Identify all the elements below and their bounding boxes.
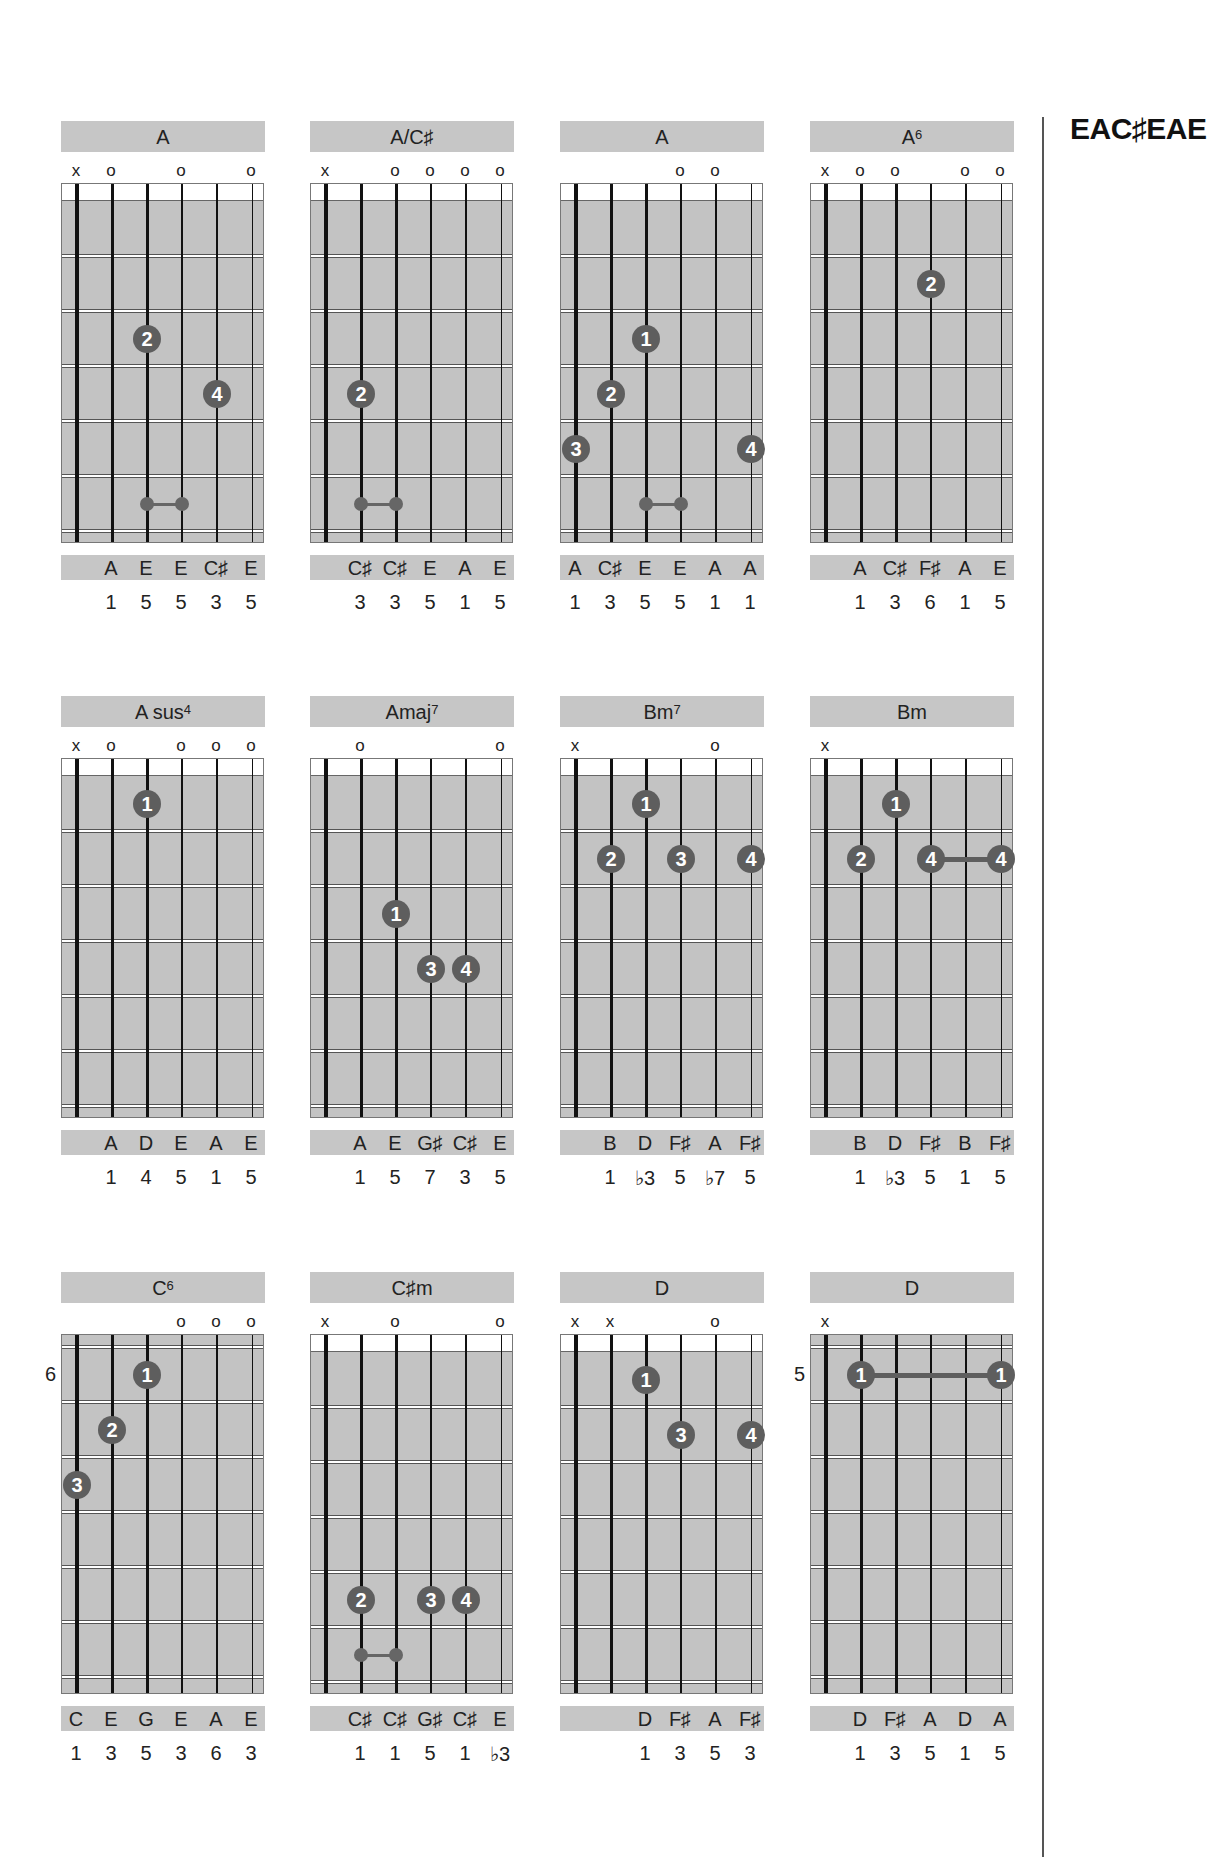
muted-string-marker: x	[565, 1312, 585, 1332]
fret-line	[311, 309, 512, 313]
note-name: G	[131, 1707, 161, 1731]
note-name: B	[845, 1131, 875, 1155]
scale-degree: 5	[236, 1166, 266, 1189]
chord-name: C♯m	[310, 1272, 514, 1303]
guitar-string	[860, 184, 863, 542]
note-name: E	[415, 556, 445, 580]
fret-line	[811, 1565, 1012, 1569]
guitar-string	[1001, 184, 1002, 542]
chord-diagram: A6xoooo2AC♯F♯AE13615	[810, 121, 1014, 621]
chord-diagram: Amaj7oo134AEG♯C♯E15735	[310, 696, 514, 1196]
guitar-string	[824, 1335, 828, 1693]
string-markers: ooo	[61, 1312, 265, 1334]
page-divider	[1042, 117, 1044, 1857]
finger-dot: 2	[597, 380, 625, 408]
open-string-marker: o	[850, 161, 870, 181]
finger-dot: 1	[632, 790, 660, 818]
fret-line	[311, 939, 512, 943]
scale-degree: 3	[880, 591, 910, 614]
note-name: A	[201, 1707, 231, 1731]
finger-dot: 4	[203, 380, 231, 408]
fret-line	[311, 419, 512, 423]
note-name: E	[236, 1707, 266, 1731]
fret-line	[561, 1460, 762, 1464]
string-markers: x	[810, 1312, 1014, 1334]
guitar-string	[930, 1335, 932, 1693]
open-string-marker: o	[490, 736, 510, 756]
scale-degrees: 1151♭3	[310, 1742, 514, 1768]
partial-barre-dot	[140, 497, 154, 511]
fret-line	[311, 1625, 512, 1629]
guitar-string	[252, 1335, 253, 1693]
scale-degree: 1	[96, 1166, 126, 1189]
scale-degree: 6	[201, 1742, 231, 1765]
scale-degree: 5	[700, 1742, 730, 1765]
fret-line	[561, 884, 762, 888]
fretboard: 1234	[560, 183, 763, 543]
note-names: AEG♯C♯E	[310, 1130, 514, 1155]
muted-string-marker: x	[315, 1312, 335, 1332]
guitar-string	[1001, 759, 1002, 1117]
fret-line	[561, 1625, 762, 1629]
fret-line	[811, 474, 1012, 478]
fretboard: 1	[61, 758, 264, 1118]
scale-degree: 1	[700, 591, 730, 614]
note-name: A	[96, 556, 126, 580]
fret-line	[561, 1515, 762, 1519]
partial-barre-dot	[354, 497, 368, 511]
scale-degrees: 13515	[810, 1742, 1014, 1768]
fret-line	[561, 309, 762, 313]
note-names: CEGEAE	[61, 1706, 265, 1731]
fret-line	[811, 1620, 1012, 1624]
guitar-string	[324, 1335, 328, 1693]
guitar-string	[395, 184, 398, 542]
finger-dot: 1	[632, 1366, 660, 1394]
fret-line	[811, 994, 1012, 998]
fret-line	[561, 1680, 762, 1684]
fret-line	[811, 829, 1012, 833]
fret-line	[561, 994, 762, 998]
finger-dot: 2	[917, 270, 945, 298]
open-string-marker: o	[670, 161, 690, 181]
fret-line	[811, 309, 1012, 313]
note-name: G♯	[415, 1707, 445, 1731]
muted-string-marker: x	[600, 1312, 620, 1332]
guitar-string	[252, 759, 253, 1117]
scale-degrees: 33515	[310, 591, 514, 617]
finger-dot: 4	[737, 845, 765, 873]
guitar-string	[181, 759, 183, 1117]
nut	[811, 759, 1012, 776]
note-name: E	[236, 556, 266, 580]
scale-degrees: 15535	[61, 591, 265, 617]
guitar-string	[501, 759, 502, 1117]
nut	[62, 184, 263, 201]
scale-degrees: 1♭3515	[810, 1166, 1014, 1192]
scale-degree: 1	[380, 1742, 410, 1765]
fret-line	[811, 1400, 1012, 1404]
note-name: C♯	[345, 1707, 375, 1731]
finger-dot: 4	[917, 845, 945, 873]
nut	[561, 184, 762, 201]
guitar-string	[216, 1335, 218, 1693]
scale-degree: 5	[415, 1742, 445, 1765]
guitar-string	[75, 1335, 79, 1693]
fretboard: 115	[810, 1334, 1013, 1694]
fret-line	[62, 1104, 263, 1108]
chord-name: A/C♯	[310, 121, 514, 152]
note-names: AEEC♯E	[61, 555, 265, 580]
fretboard: 234	[310, 1334, 513, 1694]
fret-position-label: 5	[785, 1363, 805, 1386]
scale-degree: 5	[166, 1166, 196, 1189]
chord-name-text: Bm	[643, 701, 673, 723]
chord-diagram: C♯mxoo234C♯C♯G♯C♯E1151♭3	[310, 1272, 514, 1772]
fret-line	[62, 994, 263, 998]
fret-line	[62, 1455, 263, 1459]
note-name: E	[166, 1131, 196, 1155]
fretboard: 134	[560, 1334, 763, 1694]
finger-dot: 3	[562, 435, 590, 463]
note-names: DF♯ADA	[810, 1706, 1014, 1731]
open-string-marker: o	[705, 161, 725, 181]
guitar-string	[501, 1335, 502, 1693]
scale-degree: 1	[450, 591, 480, 614]
guitar-string	[395, 759, 398, 1117]
